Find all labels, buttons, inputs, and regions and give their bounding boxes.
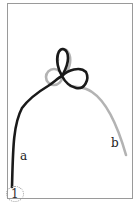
end-a-label: a: [20, 150, 27, 162]
step-number: 1: [11, 188, 19, 200]
knot-illustration: [0, 0, 136, 208]
end-b-label: b: [111, 137, 119, 149]
